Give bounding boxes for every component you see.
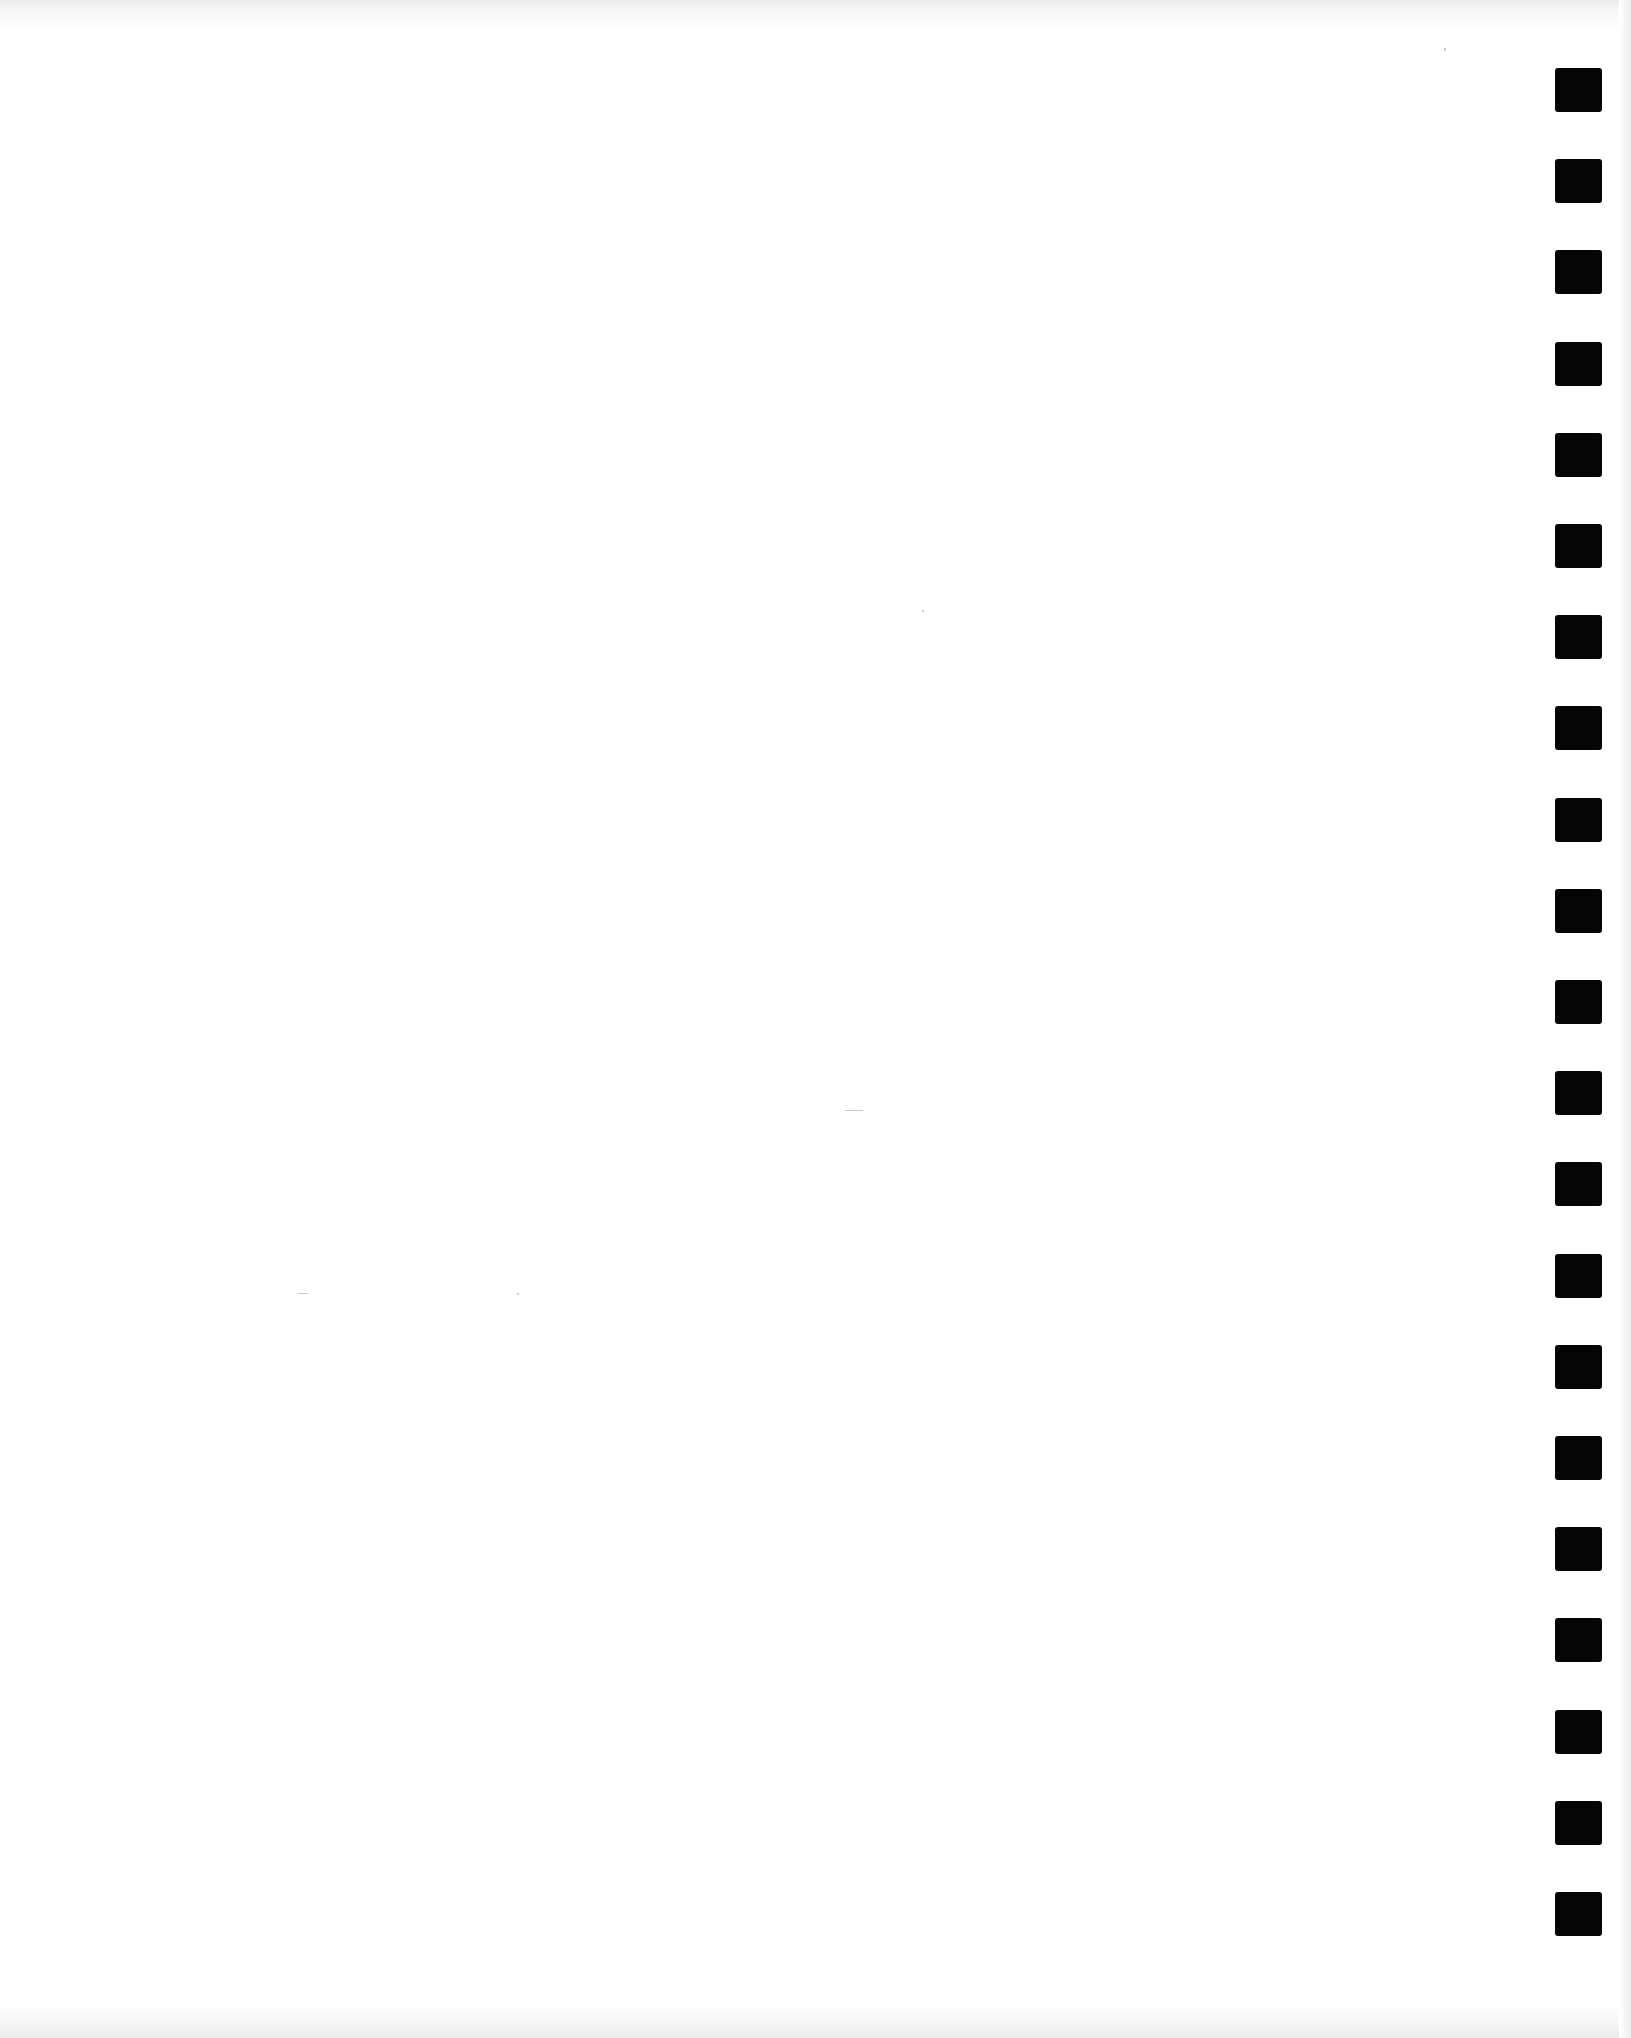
scan-speck <box>298 1293 308 1294</box>
punch-hole <box>1555 706 1602 750</box>
punch-hole <box>1555 433 1602 477</box>
punch-hole <box>1555 1162 1602 1206</box>
punch-hole <box>1555 524 1602 568</box>
page-edge-shadow <box>1619 0 1631 2038</box>
punch-hole <box>1555 980 1602 1024</box>
punch-hole <box>1555 342 1602 386</box>
scan-speck <box>1444 48 1446 51</box>
scanned-page <box>0 0 1631 2038</box>
punch-hole <box>1555 1618 1602 1662</box>
punch-hole <box>1555 250 1602 294</box>
punch-hole <box>1555 889 1602 933</box>
scan-speck <box>845 1110 863 1111</box>
punch-hole <box>1555 1071 1602 1115</box>
punch-hole <box>1555 615 1602 659</box>
punch-hole <box>1555 159 1602 203</box>
punch-hole <box>1555 1710 1602 1754</box>
punch-hole <box>1555 1527 1602 1571</box>
punch-hole <box>1555 1254 1602 1298</box>
scan-speck <box>517 1293 519 1295</box>
punch-hole <box>1555 1345 1602 1389</box>
punch-hole <box>1555 1801 1602 1845</box>
punch-hole <box>1555 1892 1602 1936</box>
punch-hole <box>1555 798 1602 842</box>
punch-hole <box>1555 68 1602 112</box>
scan-speck <box>922 610 924 612</box>
punch-hole <box>1555 1436 1602 1480</box>
punch-hole-strip <box>1555 0 1605 2038</box>
